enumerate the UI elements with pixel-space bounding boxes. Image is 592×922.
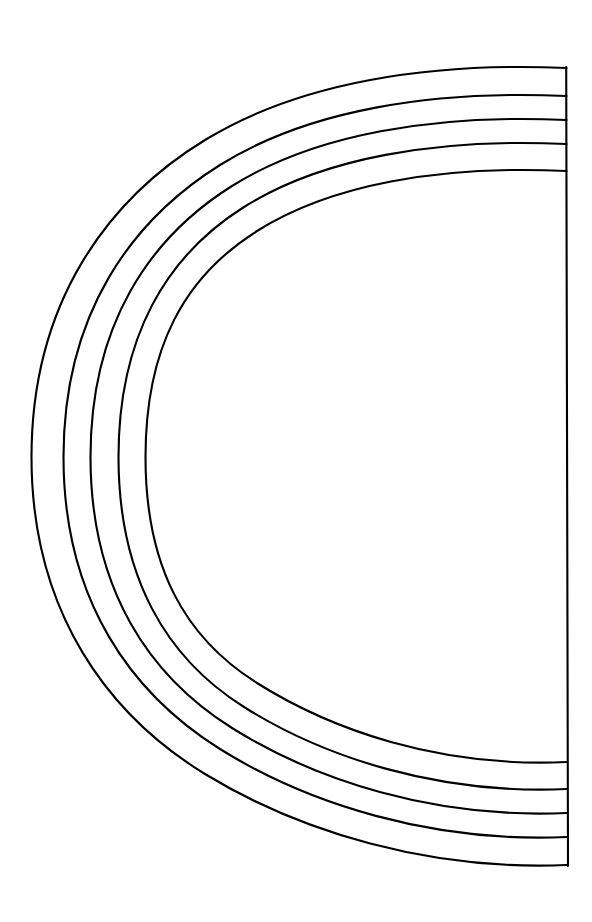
artwork-canvas: Concentric Arc Line Drawing Concentric A… — [0, 0, 592, 922]
background-rect — [0, 0, 592, 922]
concentric-arc-drawing: Concentric Arc Line Drawing — [0, 0, 592, 922]
